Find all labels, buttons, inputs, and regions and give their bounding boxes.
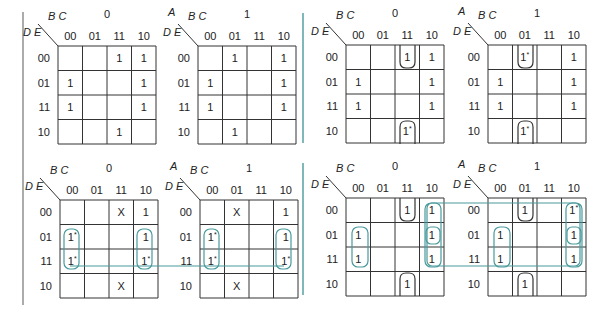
col-var-label: B C: [188, 10, 206, 22]
cell-value: 1: [207, 101, 213, 113]
cell-value: 1: [207, 77, 213, 89]
row-code: 01: [40, 231, 52, 243]
cell-value: 1: [232, 126, 238, 138]
row-code: 01: [468, 229, 480, 241]
col-var-label: B C: [50, 164, 68, 176]
col-code: 01: [377, 182, 389, 194]
col-code: 11: [254, 30, 265, 42]
a-value-label: 0: [104, 8, 110, 20]
cell-value: 1: [143, 231, 149, 243]
row-var-label: D E: [165, 180, 184, 192]
row-code: 11: [39, 101, 50, 113]
cell-value: 1: [116, 126, 122, 138]
cell-value: 1: [281, 101, 287, 113]
a-value-label: 0: [392, 160, 398, 172]
outer-var-label: A: [167, 6, 175, 18]
cell-value: 1: [571, 100, 577, 112]
cell-value: 1: [281, 52, 287, 64]
row-code: 01: [38, 77, 50, 89]
cell-value: 1: [404, 51, 410, 63]
row-code: 10: [178, 126, 190, 138]
a-value-label: 1: [244, 8, 250, 20]
col-code: 10: [568, 29, 580, 41]
a-value-label: 0: [106, 162, 112, 174]
col-code: 10: [426, 29, 438, 41]
row-code: 10: [180, 280, 192, 292]
kmap-top-left-a1: B CD EA100011110000111101111111: [163, 6, 296, 144]
col-code: 10: [280, 184, 292, 196]
col-code: 01: [229, 30, 241, 42]
col-code: 11: [116, 184, 127, 196]
row-var-label: D E: [453, 178, 472, 190]
row-code: 10: [40, 280, 52, 292]
col-code: 01: [91, 184, 103, 196]
cell-value: 1: [497, 253, 503, 265]
cell-value: 1: [141, 52, 147, 64]
cell-value: 1: [571, 229, 577, 241]
row-code: 01: [326, 76, 338, 88]
outer-var-label: A: [169, 160, 177, 172]
col-code: 10: [138, 30, 150, 42]
kmap-bottom-left-a0: B CD E00001111000011110X11*11*1*X: [25, 162, 158, 298]
cell-value: 1: [404, 278, 410, 290]
col-code: 11: [402, 29, 413, 41]
cell-value: 1: [141, 77, 147, 89]
row-code: 11: [327, 100, 338, 112]
col-code: 00: [204, 30, 216, 42]
kmap-bottom-right-a0: B CD E000011110000111101111111: [311, 160, 444, 296]
row-code: 11: [41, 255, 52, 267]
col-code: 10: [426, 182, 438, 194]
row-code: 01: [178, 77, 190, 89]
cell-value: 1: [429, 100, 435, 112]
loop-corners-spanning: [427, 203, 580, 266]
cell-value: 1: [141, 101, 147, 113]
cell-value: 1*: [520, 51, 529, 63]
row-var-label: D E: [23, 26, 42, 38]
cell-value: 1: [429, 253, 435, 265]
col-var-label: B C: [48, 10, 66, 22]
cell-value: 1: [497, 76, 503, 88]
row-code: 11: [469, 253, 480, 265]
outer-var-label: A: [457, 5, 465, 17]
col-code: 01: [377, 29, 389, 41]
cell-value: 1: [355, 229, 361, 241]
row-code: 11: [179, 101, 190, 113]
col-code: 11: [256, 184, 267, 196]
cell-value: X: [233, 280, 241, 292]
row-code: 00: [468, 51, 480, 63]
cell-value: 1: [283, 231, 289, 243]
row-code: 10: [326, 125, 338, 137]
col-code: 00: [494, 29, 506, 41]
cell-value: X: [233, 206, 241, 218]
col-code: 10: [140, 184, 152, 196]
a-value-label: 1: [534, 7, 540, 19]
cell-value: 1: [571, 253, 577, 265]
col-var-label: B C: [336, 9, 354, 21]
outer-var-label: A: [457, 158, 465, 170]
cell-value: 1: [497, 100, 503, 112]
cell-value: 1*: [68, 231, 77, 243]
cell-value: 1: [355, 253, 361, 265]
cell-value: 1*: [403, 125, 412, 137]
row-code: 11: [469, 100, 480, 112]
col-code: 00: [494, 182, 506, 194]
cell-value: 1: [232, 52, 238, 64]
col-code: 00: [206, 184, 218, 196]
cell-value: 1: [429, 229, 435, 241]
col-code: 01: [89, 30, 101, 42]
col-code: 11: [544, 182, 555, 194]
cell-value: 1*: [569, 204, 578, 216]
cell-value: 1: [67, 101, 73, 113]
cell-value: 1: [404, 204, 410, 216]
row-code: 01: [326, 229, 338, 241]
row-var-label: D E: [311, 178, 330, 190]
col-code: 01: [519, 182, 531, 194]
col-code: 00: [66, 184, 78, 196]
row-code: 01: [468, 76, 480, 88]
cell-value: 1: [355, 100, 361, 112]
a-value-label: 0: [392, 7, 398, 19]
cell-value: X: [118, 206, 126, 218]
row-code: 00: [326, 204, 338, 216]
col-code: 11: [114, 30, 125, 42]
col-var-label: B C: [478, 9, 496, 21]
